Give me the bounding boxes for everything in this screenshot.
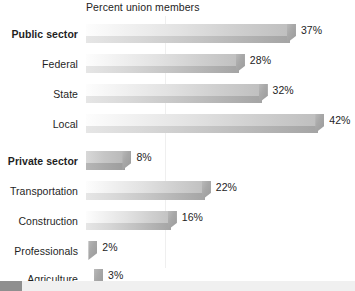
bar — [86, 84, 268, 105]
category-label: Public sector — [0, 22, 78, 46]
bar-top-face — [86, 114, 324, 126]
bar-bottom-face — [86, 163, 125, 170]
bar — [86, 151, 131, 172]
bar-bevel-end — [122, 151, 131, 170]
bar — [86, 114, 324, 135]
bar-value-label: 42% — [329, 114, 350, 126]
chart-row: Local42% — [0, 112, 355, 136]
plot-area: Public sector37%Federal28%State32%Local4… — [0, 16, 355, 278]
chart-row: Professionals2% — [0, 239, 355, 263]
bar-bevel-end — [168, 211, 177, 230]
bar-value-label: 37% — [301, 24, 322, 36]
bar-bevel-end — [88, 241, 97, 260]
chart-row: State32% — [0, 82, 355, 106]
bar-value-label: 2% — [102, 241, 117, 253]
bar-value-label: 28% — [250, 54, 271, 66]
bar-bevel-end — [287, 24, 296, 43]
chart-row: Transportation22% — [0, 179, 355, 203]
bar-bevel-end — [259, 84, 268, 103]
bar — [86, 24, 296, 45]
bar-bottom-face — [86, 193, 205, 200]
bar-value-label: 22% — [216, 181, 237, 193]
footer-bar — [22, 281, 355, 291]
category-label: Professionals — [0, 239, 78, 263]
chart-row: Private sector8% — [0, 149, 355, 173]
category-label: State — [0, 82, 78, 106]
bar-bottom-face — [86, 66, 239, 73]
bar-value-label: 16% — [182, 211, 203, 223]
bar-bevel-end — [236, 54, 245, 73]
union-membership-bar-chart: Percent union members Public sector37%Fe… — [0, 0, 355, 291]
bar — [86, 181, 211, 202]
bar-top-face — [86, 24, 296, 36]
category-label: Local — [0, 112, 78, 136]
chart-row: Federal28% — [0, 52, 355, 76]
category-label: Construction — [0, 209, 78, 233]
chart-row: Construction16% — [0, 209, 355, 233]
category-label: Private sector — [0, 149, 78, 173]
bar-bottom-face — [86, 96, 262, 103]
bar-value-label: 8% — [136, 151, 151, 163]
category-label: Transportation — [0, 179, 78, 203]
bar-value-label: 32% — [273, 84, 294, 96]
bar-top-face — [86, 181, 211, 193]
bar-top-face — [86, 211, 177, 223]
bar-bottom-face — [86, 126, 318, 133]
bar-value-label: 3% — [108, 269, 123, 281]
bar-top-face — [86, 84, 268, 96]
bar-bottom-face — [86, 36, 290, 43]
bar-bottom-face — [86, 223, 171, 230]
bar-bevel-end — [315, 114, 324, 133]
chart-title: Percent union members — [86, 1, 200, 13]
bar — [86, 54, 245, 75]
bar — [86, 241, 97, 262]
bar-top-face — [86, 54, 245, 66]
footer-swatch — [0, 281, 22, 291]
category-label: Federal — [0, 52, 78, 76]
footer-strip — [0, 281, 355, 291]
bar-bevel-end — [202, 181, 211, 200]
chart-row: Public sector37% — [0, 22, 355, 46]
bar — [86, 211, 177, 232]
